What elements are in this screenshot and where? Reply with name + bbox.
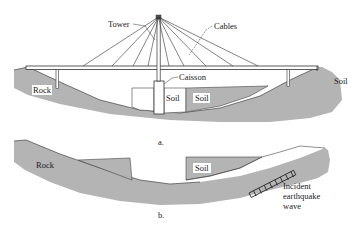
caisson (154, 81, 164, 114)
label-caisson: Caisson (179, 72, 207, 82)
label-wave-line1: Incident (283, 181, 311, 191)
label-tower: Tower (108, 19, 130, 29)
caption-a: a. (158, 137, 164, 147)
pier-left (56, 70, 59, 89)
soil-region-left (132, 88, 154, 111)
diagram-svg: Tower Cables Caisson Rock Soil Soil Soil… (0, 0, 358, 230)
label-soil-far-right: Soil (334, 76, 348, 86)
bridge-deck (26, 66, 318, 70)
label-soil-gray: Soil (195, 93, 209, 103)
label-cables: Cables (214, 21, 237, 31)
label-wave-line2: earthquake (283, 191, 321, 201)
bridge-earthquake-diagram: Tower Cables Caisson Rock Soil Soil Soil… (0, 0, 358, 230)
label-wave-line3: wave (283, 201, 301, 211)
pier-right (287, 70, 290, 87)
label-soil-center: Soil (166, 93, 180, 103)
caisson-leader (164, 77, 178, 84)
panel-b: Rock Soil Incident earthquake wave b. (14, 140, 330, 220)
label-rock-b: Rock (36, 160, 55, 170)
caption-b: b. (158, 210, 164, 220)
label-rock-a: Rock (33, 85, 52, 95)
tower (157, 17, 160, 81)
label-soil-b: Soil (195, 163, 209, 173)
cables-leader (189, 26, 212, 55)
panel-a: Tower Cables Caisson Rock Soil Soil Soil… (14, 15, 348, 147)
